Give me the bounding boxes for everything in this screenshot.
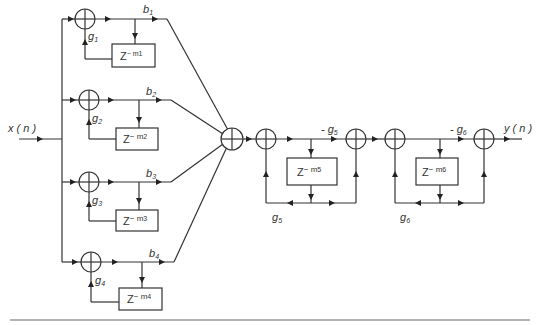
- comb-branch-2: Z− m2 g2 b2: [62, 85, 223, 150]
- output-label-b1: b1: [143, 3, 153, 16]
- allpass-section-5: - g5 Z− m5 g5: [256, 123, 385, 224]
- feedback-gain-label-6: g6: [400, 211, 410, 224]
- svg-text:g4: g4: [95, 274, 105, 287]
- arrow-icon: [37, 136, 43, 142]
- input-signal: x ( n ): [7, 122, 62, 142]
- svg-text:b3: b3: [146, 167, 156, 180]
- svg-text:b4: b4: [149, 247, 159, 260]
- allpass-section-6: - g6 Z− m6 g6: [385, 123, 522, 224]
- comb-branch-3: Z− m3 g3 b3: [62, 144, 223, 231]
- reverb-block-diagram: x ( n ) Z− m1 g1 b1 Z− m2: [0, 0, 539, 325]
- gain-label-g1: g1: [88, 30, 98, 43]
- output-label: y ( n ): [503, 122, 532, 134]
- svg-text:b2: b2: [146, 85, 156, 98]
- feedback-gain-label-5: g5: [272, 211, 282, 224]
- svg-text:g3: g3: [92, 194, 102, 207]
- combiner-summer: [221, 128, 256, 150]
- input-label: x ( n ): [7, 122, 36, 134]
- svg-text:g2: g2: [92, 112, 102, 125]
- comb-branch-1: Z− m1 g1 b1: [62, 3, 228, 130]
- forward-gain-label-6: - g6: [450, 123, 467, 136]
- forward-gain-label-5: - g5: [321, 123, 338, 136]
